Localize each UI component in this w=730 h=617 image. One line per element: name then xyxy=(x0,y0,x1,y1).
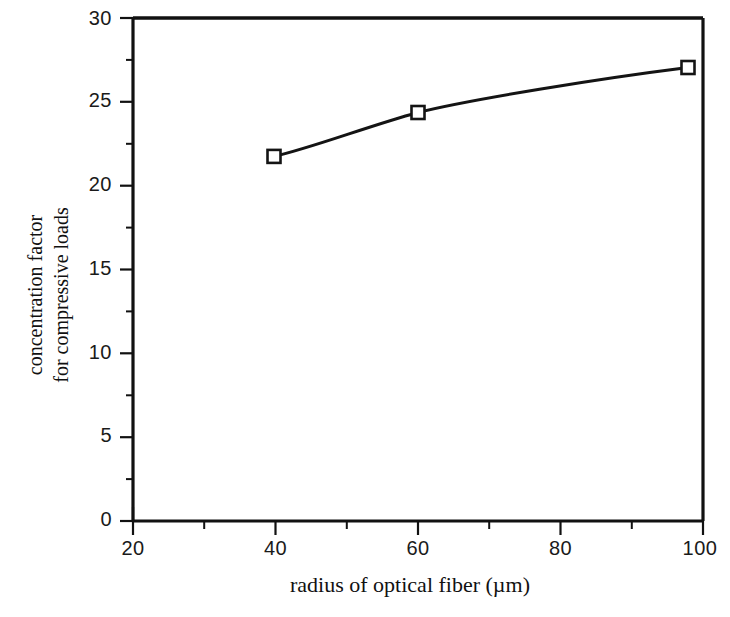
x-axis-title: radius of optical fiber (µm) xyxy=(290,572,530,597)
y-tick-label-0: 0 xyxy=(100,508,112,530)
data-point-marker-3 xyxy=(682,61,695,74)
y-tick-label-25: 25 xyxy=(89,89,112,111)
chart-figure: 0 5 10 15 20 25 30 20 40 60 80 100 conce… xyxy=(0,0,730,617)
x-tick-label-20: 20 xyxy=(121,537,144,559)
y-tick-label-30: 30 xyxy=(89,7,112,29)
y-axis-title-line-2: for compressive loads xyxy=(50,207,73,383)
y-axis-tick-labels: 0 5 10 15 20 25 30 xyxy=(89,7,112,530)
y-tick-label-10: 10 xyxy=(89,341,112,363)
y-tick-label-20: 20 xyxy=(89,173,112,195)
y-tick-label-5: 5 xyxy=(100,424,112,446)
x-axis-tick-labels: 20 40 60 80 100 xyxy=(121,537,717,559)
line-chart-canvas: 0 5 10 15 20 25 30 20 40 60 80 100 conce… xyxy=(0,0,730,617)
x-tick-label-100: 100 xyxy=(683,537,718,559)
plot-frame xyxy=(133,18,703,521)
data-point-marker-2 xyxy=(412,106,425,119)
x-tick-label-60: 60 xyxy=(406,537,429,559)
series-line-stress-concentration xyxy=(274,68,688,157)
data-point-marker-1 xyxy=(268,150,281,163)
y-axis-title: concentration factor for compressive loa… xyxy=(24,207,73,383)
x-tick-label-40: 40 xyxy=(264,537,287,559)
x-tick-label-80: 80 xyxy=(549,537,572,559)
y-tick-label-15: 15 xyxy=(89,257,112,279)
y-axis-title-line-1: concentration factor xyxy=(24,214,46,375)
y-axis-major-ticks xyxy=(120,18,133,521)
